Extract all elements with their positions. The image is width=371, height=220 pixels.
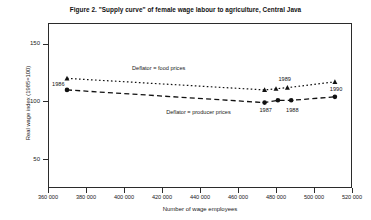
series-line [67,78,335,90]
data-point-label-1989: 1989 [279,76,291,82]
series-1 [65,76,338,92]
series-annotation-2: Deflator = producer prices [166,109,231,115]
series-2 [65,88,338,105]
data-point-label-1986: 1986 [52,81,64,87]
data-point-circle [333,95,338,100]
data-point-triangle [65,76,70,81]
data-point-label-1988: 1988 [286,107,298,113]
data-point-label-1987: 1987 [260,107,272,113]
chart-canvas: Figure 2. "Supply curve" of female wage … [0,0,371,220]
data-point-triangle [285,85,290,90]
data-point-label-1990: 1990 [330,86,342,92]
series-annotation-1: Deflator = food prices [132,65,185,71]
data-point-circle [262,100,267,105]
data-point-triangle [332,79,337,84]
data-point-triangle [274,86,279,91]
series-line [67,90,335,103]
data-point-circle [65,88,70,93]
data-point-circle [289,98,294,103]
data-point-circle [276,98,281,103]
